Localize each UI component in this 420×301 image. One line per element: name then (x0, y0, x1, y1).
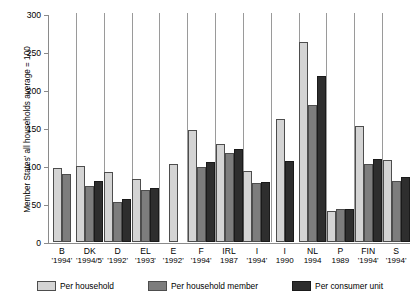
bar-group (327, 14, 354, 242)
legend-swatch-icon (148, 281, 167, 291)
y-tick-label: 50 (15, 201, 41, 210)
x-axis-group-label: IRL1987 (215, 246, 243, 266)
bar (336, 209, 345, 242)
bar (113, 202, 122, 242)
legend-item: Per household (37, 281, 114, 291)
bar (62, 174, 71, 242)
legend-label: Per household member (171, 281, 258, 291)
y-tick-mark (44, 129, 49, 130)
x-year-label: '1992' (159, 256, 187, 266)
bar (132, 179, 141, 242)
bar (355, 126, 364, 242)
x-category-label: I (243, 246, 271, 256)
bar-group (383, 14, 410, 242)
legend-swatch-icon (292, 281, 311, 291)
bar (197, 167, 206, 242)
x-axis-group-label: B'1994' (48, 246, 76, 266)
bar (141, 190, 150, 242)
legend-label: Per household (60, 281, 114, 291)
bar (76, 166, 85, 242)
x-axis-labels: B'1994'DK'1994/5'D'1992'EL'1993'E'1992'F… (48, 246, 410, 276)
bar (104, 172, 113, 242)
x-year-label: '1994' (354, 256, 382, 266)
bar (327, 211, 336, 242)
x-category-label: D (104, 246, 132, 256)
x-axis-group-label: DK'1994/5' (76, 246, 104, 266)
x-year-label: '1993' (132, 256, 160, 266)
x-category-label: F (187, 246, 215, 256)
bar (243, 171, 252, 242)
x-axis-group-label: E'1992' (159, 246, 187, 266)
bar-chart: Member States' all households average = … (0, 0, 420, 301)
bar (345, 209, 354, 242)
x-category-label: NL (299, 246, 327, 256)
x-axis-group-label: FIN'1994' (354, 246, 382, 266)
x-category-label: FIN (354, 246, 382, 256)
x-axis-line (48, 243, 410, 244)
x-category-label: I (271, 246, 299, 256)
x-year-label: 1989 (326, 256, 354, 266)
bar-group (104, 14, 131, 242)
bar (85, 186, 94, 242)
x-axis-group-label: S'1994' (382, 246, 410, 266)
group-separator (271, 13, 272, 242)
bar (261, 182, 270, 242)
y-tick-mark (44, 53, 49, 54)
y-tick-label: 250 (15, 49, 41, 58)
bar (308, 105, 317, 242)
x-axis-group-label: NL1994 (299, 246, 327, 266)
bar (317, 76, 326, 242)
bar (276, 119, 285, 242)
x-category-label: DK (76, 246, 104, 256)
bar (373, 159, 382, 242)
bar (188, 130, 197, 242)
bar-group (216, 14, 243, 242)
bar-group (53, 14, 71, 242)
x-category-label: IRL (215, 246, 243, 256)
x-category-label: S (382, 246, 410, 256)
x-year-label: '1994' (187, 256, 215, 266)
legend-item: Per consumer unit (292, 281, 383, 291)
x-category-label: P (326, 246, 354, 256)
x-category-label: E (159, 246, 187, 256)
bar-group (299, 14, 326, 242)
x-year-label: '1994' (48, 256, 76, 266)
y-tick-label: 0 (15, 239, 41, 248)
y-tick-label: 150 (15, 125, 41, 134)
x-axis-group-label: P1989 (326, 246, 354, 266)
y-tick-label: 200 (15, 87, 41, 96)
y-tick-mark (44, 91, 49, 92)
y-tick-mark (44, 167, 49, 168)
legend-swatch-icon (37, 281, 56, 291)
group-separator (159, 13, 160, 242)
bar (206, 162, 215, 242)
x-year-label: 1987 (215, 256, 243, 266)
bar (94, 181, 103, 242)
y-tick-label: 100 (15, 163, 41, 172)
bar (234, 149, 243, 242)
bar (252, 183, 261, 242)
x-year-label: 1994 (299, 256, 327, 266)
x-category-label: B (48, 246, 76, 256)
x-year-label: '1994' (243, 256, 271, 266)
legend-label: Per consumer unit (315, 281, 383, 291)
bar (225, 153, 234, 242)
y-tick-mark (44, 15, 49, 16)
plot-area: 050100150200250300 (48, 15, 410, 243)
x-axis-group-label: I1990 (271, 246, 299, 266)
x-year-label: '1992' (104, 256, 132, 266)
x-year-label: 1990 (271, 256, 299, 266)
bar-group (355, 14, 382, 242)
x-axis-group-label: D'1992' (104, 246, 132, 266)
bar-group (188, 14, 215, 242)
bar (150, 188, 159, 242)
bar-group (169, 14, 178, 242)
y-tick-mark (44, 243, 49, 244)
x-axis-group-label: I'1994' (243, 246, 271, 266)
y-tick-label: 300 (15, 11, 41, 20)
bar-group (276, 14, 294, 242)
bar (285, 161, 294, 242)
bar (169, 164, 178, 242)
x-axis-group-label: EL'1993' (132, 246, 160, 266)
bar (122, 199, 131, 242)
